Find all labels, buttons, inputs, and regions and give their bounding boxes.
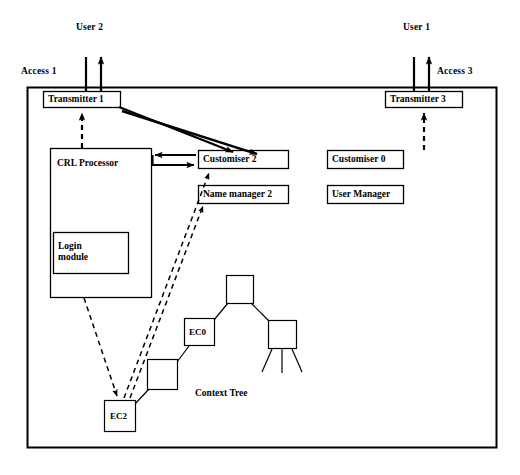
name-manager2-label: Name manager 2 — [203, 189, 272, 200]
tree-node-root — [227, 276, 254, 304]
transmitter1-label: Transmitter 1 — [48, 94, 104, 105]
external-actor-user2-label: User 2 — [76, 22, 103, 33]
user-manager-label: User Manager — [332, 189, 390, 200]
tree-node-mid — [148, 360, 178, 390]
customiser0-label: Customiser 0 — [332, 154, 385, 165]
external-actor-user1-label: User 1 — [403, 22, 430, 33]
customiser2-label: Customiser 2 — [203, 154, 256, 165]
access-point-access3-label: Access 3 — [437, 66, 473, 77]
crl-ec2-dashed-link — [84, 298, 117, 396]
context-tree — [105, 276, 303, 432]
crl-processor-box — [51, 149, 152, 298]
tree-node-ec0-label: EC0 — [189, 327, 206, 337]
crl-customiser2-link — [151, 155, 196, 166]
transmitter3-label: Transmitter 3 — [390, 94, 446, 105]
tree-node-ec2-label: EC2 — [110, 411, 127, 421]
context-tree-caption: Context Tree — [195, 388, 248, 399]
login-module-label: Login module — [58, 241, 88, 263]
tree-node-right — [269, 321, 297, 349]
crl-processor-label: CRL Processor — [57, 158, 118, 169]
transmitter1-customiser2-link — [119, 107, 257, 154]
diagram-canvas: User 2 User 1 Access 1 Access 3 Transmit… — [0, 0, 520, 475]
access-point-access1-label: Access 1 — [21, 66, 57, 77]
